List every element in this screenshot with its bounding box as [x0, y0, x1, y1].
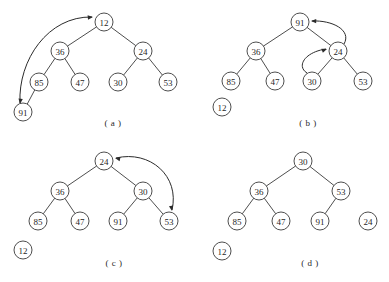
tree-edge-36-47 [65, 198, 75, 213]
tree-node-85: 85 [222, 72, 240, 90]
node-label: 12 [218, 247, 227, 257]
detached-node-12: 12 [213, 242, 231, 260]
tree-node-91: 91 [14, 103, 32, 121]
tree-node-85: 85 [30, 73, 48, 91]
tree-node-85: 85 [228, 212, 246, 230]
tree-node-36: 36 [250, 182, 268, 200]
node-label: 53 [165, 217, 175, 227]
node-label: 47 [277, 217, 287, 227]
tree-node-47: 47 [272, 212, 290, 230]
tree-node-24: 24 [134, 42, 152, 60]
node-label: 53 [337, 187, 347, 197]
tree-node-12: 12 [95, 13, 113, 31]
tree-node-36: 36 [51, 42, 69, 60]
tree-node-24: 24 [95, 152, 113, 170]
detached-node-12: 12 [14, 241, 32, 259]
node-label: 91 [296, 18, 305, 28]
node-label: 91 [19, 108, 28, 118]
node-label: 47 [76, 217, 86, 227]
tree-edge-91-24 [307, 27, 331, 45]
tree-node-36: 36 [247, 42, 265, 60]
node-label: 47 [76, 78, 86, 88]
node-label: 30 [299, 157, 309, 167]
node-label: 36 [56, 187, 66, 197]
node-label: 36 [255, 187, 265, 197]
tree-node-53: 53 [160, 212, 178, 230]
tree-node-91: 91 [311, 212, 329, 230]
tree-edge-36-47 [261, 59, 270, 74]
node-label: 91 [316, 217, 325, 227]
tree-node-91: 91 [291, 13, 309, 31]
tree-edge-30-53 [310, 167, 334, 186]
node-label: 12 [218, 103, 227, 113]
node-label: 85 [227, 77, 237, 87]
tree-node-30: 30 [109, 73, 127, 91]
tree-edge-36-85 [43, 198, 54, 213]
tree-node-85: 85 [29, 212, 47, 230]
tree-node-53: 53 [354, 72, 372, 90]
tree-edge-30-53 [149, 198, 163, 214]
node-label: 53 [359, 77, 369, 87]
tree-node-47: 47 [71, 212, 89, 230]
tree-edge-24-53 [344, 58, 357, 74]
tree-node-47: 47 [71, 73, 89, 91]
node-label: 47 [271, 77, 281, 87]
detached-node-24: 24 [359, 212, 377, 230]
tree-edge-53-91 [325, 198, 336, 213]
node-label: 12 [100, 18, 109, 28]
tree-node-47: 47 [266, 72, 284, 90]
node-label: 53 [164, 78, 174, 88]
panel-caption-a: ( a ) [105, 118, 122, 128]
tree-edge-24-30 [124, 58, 138, 75]
tree-edge-36-85 [237, 58, 250, 74]
tree-edge-36-47 [264, 198, 275, 213]
node-label: 36 [252, 47, 262, 57]
tree-edge-24-30 [318, 58, 332, 74]
arrow-head-icon [311, 19, 316, 23]
tree-edge-30-36 [266, 166, 295, 186]
swap-arrows-layer [18, 15, 345, 211]
figure-root: 1236248547305391913624854730531224363085… [0, 0, 389, 282]
node-label: 85 [35, 78, 45, 88]
tree-node-36: 36 [51, 182, 69, 200]
node-label: 30 [139, 187, 149, 197]
node-label: 36 [56, 47, 66, 57]
tree-node-30: 30 [303, 72, 321, 90]
node-label: 24 [100, 157, 110, 167]
tree-node-24: 24 [329, 42, 347, 60]
tree-node-30: 30 [294, 152, 312, 170]
node-label: 91 [114, 217, 123, 227]
panel-caption-c: ( c ) [106, 258, 123, 268]
tree-edge-12-36 [68, 27, 97, 46]
tree-edge-24-30 [111, 166, 136, 185]
tree-edge-30-91 [124, 198, 137, 214]
tree-edge-85-91 [27, 90, 35, 104]
tree-edge-12-24 [111, 27, 136, 45]
panel-caption-b: ( b ) [299, 118, 317, 128]
tree-figure-canvas: 1236248547305391913624854730531224363085… [0, 0, 389, 282]
node-label: 24 [139, 47, 149, 57]
tree-edge-24-36 [67, 166, 96, 186]
panel-caption-d: ( d ) [301, 258, 319, 268]
tree-node-53: 53 [332, 182, 350, 200]
tree-node-53: 53 [159, 73, 177, 91]
arrow-head-icon [321, 49, 327, 53]
node-label: 12 [19, 246, 28, 256]
node-label: 24 [364, 217, 374, 227]
arrow-move-24-to-91 [312, 21, 346, 44]
tree-edge-91-36 [264, 27, 293, 46]
tree-node-91: 91 [109, 212, 127, 230]
arrow-head-icon [115, 157, 121, 161]
node-label: 30 [308, 77, 318, 87]
tree-edge-36-85 [44, 58, 55, 74]
arrow-head-icon [169, 205, 173, 211]
detached-node-12: 12 [213, 98, 231, 116]
node-label: 30 [114, 78, 124, 88]
arrow-head-icon [88, 15, 93, 19]
node-label: 85 [34, 217, 44, 227]
node-label: 24 [334, 47, 344, 57]
node-label: 85 [233, 217, 243, 227]
tree-edge-36-85 [242, 198, 253, 213]
tree-edge-36-47 [65, 59, 75, 75]
tree-node-30: 30 [134, 182, 152, 200]
